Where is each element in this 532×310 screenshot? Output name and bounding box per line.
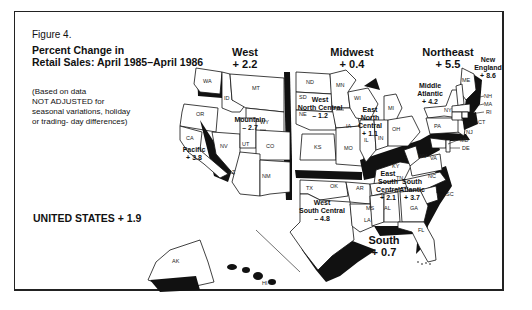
svg-text:ME: ME — [462, 77, 471, 83]
division-mountain — [212, 72, 292, 200]
svg-text:IN: IN — [378, 135, 384, 141]
svg-text:VA: VA — [430, 155, 437, 161]
svg-text:+ 4.2: + 4.2 — [422, 98, 438, 105]
svg-text:TX: TX — [306, 185, 313, 191]
state-ct — [452, 112, 462, 120]
svg-text:East: East — [363, 106, 378, 113]
svg-text:CO: CO — [266, 143, 275, 149]
division-west-north-central — [295, 70, 366, 180]
svg-text:MI: MI — [388, 105, 395, 111]
svg-text:AR: AR — [356, 185, 364, 191]
region-south-name: South — [368, 234, 399, 246]
svg-text:MT: MT — [252, 85, 261, 91]
svg-text:WI: WI — [354, 95, 361, 101]
svg-text:Atlantic: Atlantic — [399, 186, 425, 193]
svg-text:NM: NM — [262, 173, 271, 179]
svg-text:Mountain: Mountain — [234, 116, 265, 123]
svg-text:NY: NY — [444, 107, 452, 113]
svg-text:IA: IA — [346, 123, 352, 129]
svg-text:KS: KS — [314, 144, 322, 150]
svg-text:OH: OH — [392, 126, 400, 132]
svg-text:East: East — [381, 170, 396, 177]
svg-text:OK: OK — [330, 183, 338, 189]
svg-text:MD: MD — [460, 137, 469, 143]
svg-text:North Central: North Central — [298, 104, 343, 111]
svg-text:Central: Central — [376, 186, 400, 193]
state-de — [446, 140, 450, 152]
svg-text:Pacific: Pacific — [183, 146, 206, 153]
division-west-south-central — [290, 180, 376, 282]
svg-text:NH: NH — [484, 93, 492, 99]
svg-text:+ 1.1: + 1.1 — [362, 130, 378, 137]
svg-text:HI: HI — [262, 280, 268, 286]
svg-text:MS: MS — [366, 205, 375, 211]
region-west-name: West — [232, 46, 258, 58]
state-fl — [398, 222, 436, 262]
svg-text:ND: ND — [306, 79, 314, 85]
state-ri — [462, 112, 468, 118]
region-south-value: + 0.7 — [372, 246, 397, 258]
state-nd — [296, 72, 332, 94]
svg-text:New: New — [481, 56, 496, 63]
svg-text:– 4.8: – 4.8 — [314, 215, 330, 222]
svg-text:AZ: AZ — [228, 169, 236, 175]
svg-text:RI: RI — [486, 109, 492, 115]
svg-text:FL: FL — [418, 227, 424, 233]
svg-text:England: England — [474, 64, 502, 72]
svg-text:LA: LA — [364, 217, 371, 223]
state-md — [430, 138, 446, 148]
svg-text:PA: PA — [434, 123, 441, 129]
svg-text:+ 8.6: + 8.6 — [480, 72, 496, 79]
svg-text:NE: NE — [299, 111, 307, 117]
svg-text:WA: WA — [203, 78, 212, 84]
svg-text:WV: WV — [418, 153, 427, 159]
svg-text:UT: UT — [242, 141, 250, 147]
svg-text:Middle: Middle — [419, 82, 441, 89]
region-northeast-value: + 5.5 — [436, 58, 461, 70]
region-midwest-value: + 0.4 — [340, 58, 366, 70]
svg-text:West: West — [312, 96, 329, 103]
svg-text:South Central: South Central — [299, 207, 345, 214]
svg-text:+ 2.1: + 2.1 — [380, 194, 396, 201]
svg-text:NV: NV — [220, 143, 228, 149]
svg-text:MO: MO — [344, 145, 354, 151]
svg-text:South: South — [402, 178, 422, 185]
svg-text:CT: CT — [478, 119, 486, 125]
svg-text:DE: DE — [462, 145, 470, 151]
svg-text:KY: KY — [392, 163, 400, 169]
svg-text:SC: SC — [446, 191, 454, 197]
svg-text:South: South — [378, 178, 398, 185]
svg-text:ID: ID — [224, 95, 230, 101]
svg-text:AK: AK — [172, 258, 180, 264]
svg-text:NJ: NJ — [466, 129, 473, 135]
svg-text:– 2.7: – 2.7 — [242, 124, 258, 131]
svg-text:OR: OR — [196, 111, 204, 117]
state-hi — [227, 264, 276, 285]
svg-text:IL: IL — [364, 137, 369, 143]
svg-text:– 1.2: – 1.2 — [312, 112, 328, 119]
region-northeast-name: Northeast — [422, 46, 474, 58]
us-map: WA OR CA ID NV MT WY UT CO AZ NM AK HI N… — [0, 0, 532, 310]
svg-text:+ 3.7: + 3.7 — [404, 194, 420, 201]
svg-text:GA: GA — [410, 205, 418, 211]
svg-text:+ 3.8: + 3.8 — [186, 154, 202, 161]
svg-text:MN: MN — [336, 82, 345, 88]
svg-text:MA: MA — [484, 101, 493, 107]
svg-text:AL: AL — [384, 205, 391, 211]
region-west-value: + 2.2 — [233, 58, 258, 70]
svg-text:CA: CA — [186, 135, 194, 141]
svg-text:North: North — [361, 114, 380, 121]
region-midwest-name: Midwest — [330, 46, 374, 58]
svg-text:NC: NC — [428, 173, 436, 179]
svg-text:SD: SD — [299, 94, 307, 100]
svg-text:West: West — [314, 199, 331, 206]
svg-text:Atlantic: Atlantic — [417, 90, 443, 97]
svg-text:Central: Central — [358, 122, 382, 129]
